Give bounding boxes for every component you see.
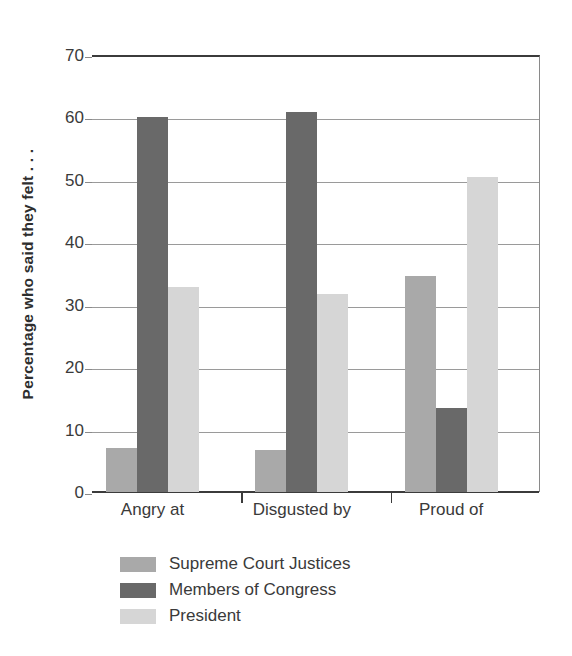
bar-chart-figure: Percentage who said they felt . . . 0102… [0, 0, 572, 656]
y-axis-tick-mark [85, 432, 92, 433]
x-axis-category-label: Proud of [419, 500, 483, 520]
plot-area [92, 55, 540, 492]
x-axis-tick-mark [391, 492, 393, 503]
y-axis-tick-mark [85, 182, 92, 183]
bar [286, 112, 317, 492]
y-axis-tick-label: 10 [65, 421, 84, 438]
y-axis-tick-label: 40 [65, 234, 84, 251]
plot-inner [92, 57, 539, 492]
legend-label: President [169, 606, 241, 626]
y-axis-tick-label: 20 [65, 359, 84, 376]
y-axis-tick-labels: 010203040506070 [40, 55, 84, 492]
y-axis-tick-label: 50 [65, 171, 84, 188]
bar [106, 448, 137, 492]
y-axis-tick-label: 60 [65, 109, 84, 126]
y-axis-tick-label: 0 [75, 484, 84, 501]
legend: Supreme Court JusticesMembers of Congres… [120, 551, 350, 629]
legend-swatch [120, 583, 156, 598]
y-axis-tick-mark [85, 57, 92, 58]
y-axis-title-text: Percentage who said they felt . . . [19, 148, 37, 399]
x-axis-category-label: Angry at [121, 500, 184, 520]
y-axis-tick-mark [85, 307, 92, 308]
x-axis-tick-mark [241, 492, 243, 503]
bar [467, 177, 498, 492]
legend-label: Supreme Court Justices [169, 554, 350, 574]
bar [436, 408, 467, 492]
legend-swatch [120, 609, 156, 624]
x-axis-category-label: Disgusted by [253, 500, 351, 520]
legend-item: President [120, 603, 350, 629]
y-axis-tick-mark [85, 494, 92, 495]
bar [255, 450, 286, 492]
bar [168, 287, 199, 492]
legend-item: Supreme Court Justices [120, 551, 350, 577]
y-axis-tick-mark [85, 119, 92, 120]
bar [317, 294, 348, 492]
y-axis-tick-label: 30 [65, 296, 84, 313]
y-axis-tick-mark [85, 369, 92, 370]
y-axis-tick-label: 70 [65, 47, 84, 64]
legend-label: Members of Congress [169, 580, 336, 600]
legend-swatch [120, 557, 156, 572]
bar [137, 117, 168, 492]
bar [405, 276, 436, 492]
legend-item: Members of Congress [120, 577, 350, 603]
y-axis-tick-mark [85, 244, 92, 245]
